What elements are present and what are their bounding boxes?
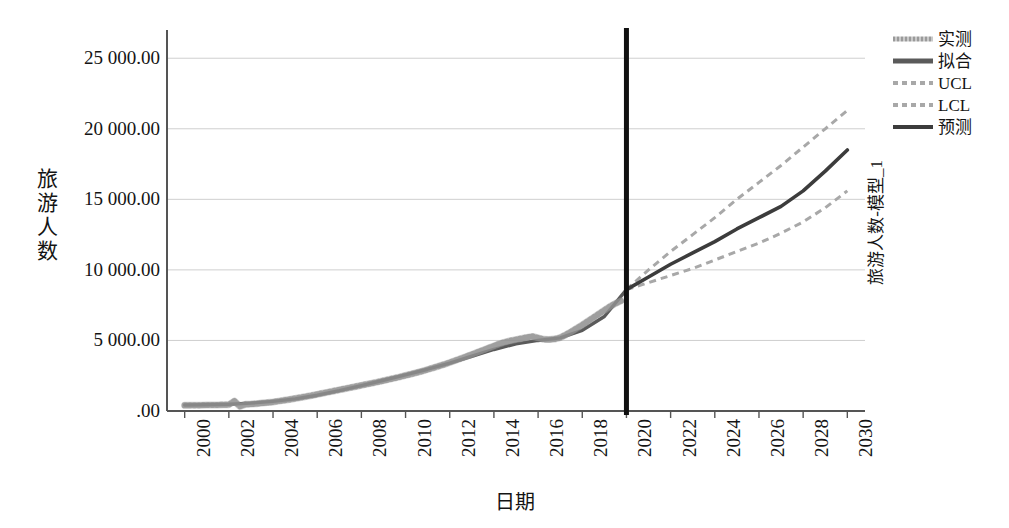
legend-swatch-forecast-icon	[893, 121, 933, 133]
x-tick-label: 2014	[502, 419, 524, 457]
x-tick-label: 2008	[369, 419, 391, 457]
legend-label-forecast: 预测	[938, 119, 972, 136]
legend-swatch-ucl-icon	[893, 77, 933, 89]
x-tick-label: 2004	[281, 419, 303, 457]
series-fitted	[185, 290, 627, 405]
series-layer	[185, 110, 848, 406]
legend-swatch-observed-icon	[893, 33, 933, 45]
x-tick-label: 2010	[414, 419, 436, 457]
x-tick-label: 2022	[679, 419, 701, 457]
x-tick-label: 2026	[767, 419, 789, 457]
series-forecast	[626, 150, 847, 290]
legend-swatch-lcl-icon	[893, 99, 933, 111]
x-tick-label: 2006	[325, 419, 347, 457]
x-tick-label: 2030	[855, 419, 877, 457]
right-axis-title: 旅游人数-模型_1	[862, 160, 887, 285]
x-tick-label: 2020	[634, 419, 656, 457]
x-tick-label: 2024	[723, 419, 745, 457]
gridlines	[167, 58, 865, 340]
legend-label-ucl: UCL	[938, 75, 972, 92]
series-ucl	[626, 110, 847, 289]
x-tick-label: 2028	[811, 419, 833, 457]
series-lcl	[626, 191, 847, 290]
x-axis-title-text: 日期	[475, 491, 535, 513]
x-tick-label: 2012	[458, 419, 480, 457]
legend-label-lcl: LCL	[938, 97, 970, 114]
legend-item-lcl[interactable]: LCL	[893, 94, 1009, 116]
legend-item-ucl[interactable]: UCL	[893, 72, 1009, 94]
x-tick-label: 2018	[590, 419, 612, 457]
x-tick-marks	[185, 411, 848, 418]
legend-item-observed[interactable]: 实测	[893, 28, 1009, 50]
legend-swatch-fitted-icon	[893, 55, 933, 67]
axis-lines	[167, 30, 865, 411]
x-tick-label: 2016	[546, 419, 568, 457]
legend: 实测 拟合 UCL LCL 预测	[893, 28, 1009, 138]
series-observed	[185, 301, 621, 406]
forecast-chart: 旅 游 人 数 .005 000.0010 000.0015 000.0020 …	[0, 0, 1009, 528]
legend-label-fitted: 拟合	[938, 53, 972, 70]
legend-item-fitted[interactable]: 拟合	[893, 50, 1009, 72]
x-tick-label: 2000	[193, 419, 215, 457]
x-axis-title: 日期	[0, 486, 1009, 515]
x-tick-label: 2002	[237, 419, 259, 457]
legend-label-observed: 实测	[938, 31, 972, 48]
legend-item-forecast[interactable]: 预测	[893, 116, 1009, 138]
